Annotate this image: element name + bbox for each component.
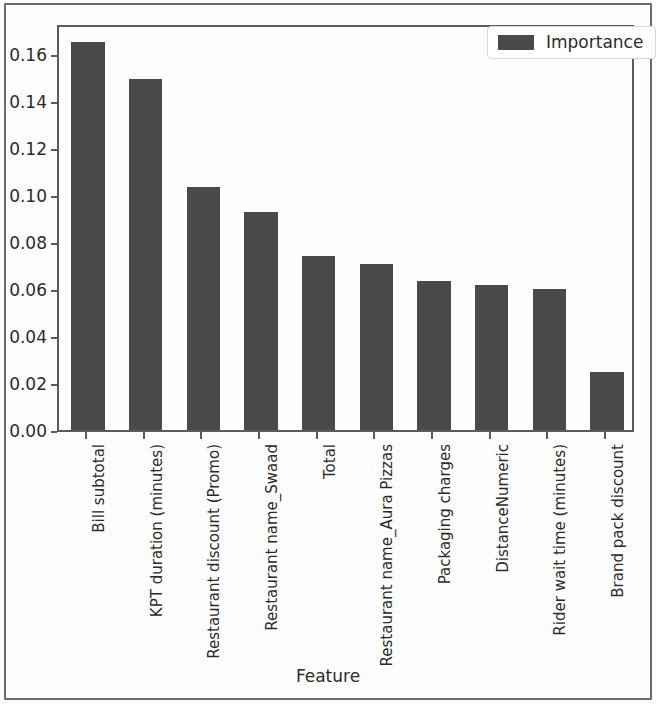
x-tick-mark xyxy=(143,432,145,439)
x-tick-label: Restaurant name_Swaad xyxy=(265,444,280,631)
x-tick-label: Bill subtotal xyxy=(92,444,107,533)
y-tick-mark xyxy=(51,384,57,386)
bar xyxy=(533,289,566,430)
y-tick-label: 0.04 xyxy=(9,327,47,347)
y-tick-mark xyxy=(51,243,57,245)
bar xyxy=(360,264,393,430)
legend-swatch-importance xyxy=(498,35,534,50)
bars-layer xyxy=(59,27,632,430)
bar xyxy=(475,285,508,430)
x-tick-mark xyxy=(489,432,491,439)
bar xyxy=(244,212,277,430)
x-tick-label: Packaging charges xyxy=(438,444,453,584)
y-tick-mark xyxy=(51,290,57,292)
x-tick-label: DistanceNumeric xyxy=(496,444,511,573)
figure-root: 0.000.020.040.060.080.100.120.140.16 Bil… xyxy=(0,0,656,704)
x-tick-mark xyxy=(546,432,548,439)
bar xyxy=(302,256,335,430)
y-tick-label: 0.12 xyxy=(9,139,47,159)
x-tick-mark xyxy=(200,432,202,439)
x-tick-label: Restaurant name_Aura Pizzas xyxy=(380,444,395,666)
x-tick-mark xyxy=(604,432,606,439)
y-tick-mark xyxy=(51,431,57,433)
bar xyxy=(71,42,104,430)
x-tick-mark xyxy=(316,432,318,439)
bar xyxy=(187,187,220,430)
bar xyxy=(417,281,450,430)
y-tick-label: 0.02 xyxy=(9,374,47,394)
y-tick-label: 0.06 xyxy=(9,280,47,300)
x-axis-title: Feature xyxy=(0,666,656,686)
y-tick-label: 0.14 xyxy=(9,92,47,112)
y-tick-label: 0.16 xyxy=(9,45,47,65)
y-tick-mark xyxy=(51,196,57,198)
chart-legend: Importance xyxy=(487,26,656,59)
bar xyxy=(129,79,162,430)
x-tick-label: Restaurant discount (Promo) xyxy=(207,444,222,659)
x-tick-mark xyxy=(258,432,260,439)
bar xyxy=(590,372,623,430)
x-tick-label: Brand pack discount xyxy=(611,444,626,598)
x-tick-label: Rider wait time (minutes) xyxy=(553,444,568,636)
y-tick-mark xyxy=(51,337,57,339)
x-tick-label: KPT duration (minutes) xyxy=(150,444,165,617)
legend-label-importance: Importance xyxy=(546,33,643,52)
y-tick-mark xyxy=(51,55,57,57)
y-tick-label: 0.08 xyxy=(9,233,47,253)
x-tick-mark xyxy=(431,432,433,439)
y-tick-mark xyxy=(51,102,57,104)
x-tick-mark xyxy=(85,432,87,439)
x-tick-label: Total xyxy=(323,444,338,479)
x-tick-mark xyxy=(373,432,375,439)
plot-area xyxy=(57,25,634,432)
y-tick-label: 0.10 xyxy=(9,186,47,206)
y-tick-label: 0.00 xyxy=(9,421,47,441)
y-tick-mark xyxy=(51,149,57,151)
